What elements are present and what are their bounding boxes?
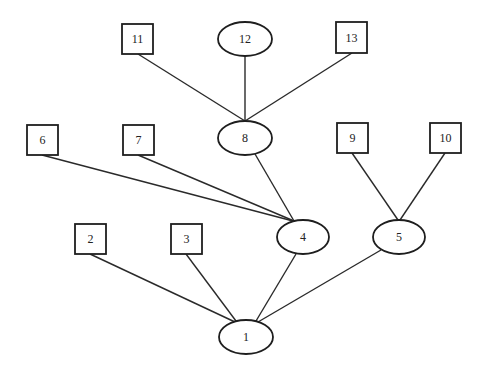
node-label: 4 — [300, 230, 306, 244]
node-label: 5 — [396, 230, 402, 244]
node-label: 9 — [350, 131, 356, 145]
node-label: 10 — [440, 131, 452, 145]
node-2: 2 — [75, 224, 106, 254]
node-6: 6 — [27, 125, 58, 155]
node-1: 1 — [219, 320, 273, 354]
node-10: 10 — [430, 123, 461, 153]
edge-7-to-4 — [138, 155, 294, 221]
node-label: 11 — [132, 32, 144, 46]
node-label: 7 — [136, 133, 142, 147]
node-11: 11 — [122, 24, 153, 54]
node-7: 7 — [123, 125, 154, 155]
node-12: 12 — [218, 22, 272, 56]
node-13: 13 — [336, 22, 367, 53]
node-label: 2 — [88, 232, 94, 246]
node-label: 6 — [40, 133, 46, 147]
node-label: 12 — [239, 32, 251, 46]
node-9: 9 — [337, 123, 368, 153]
edge-10-to-5 — [400, 153, 445, 220]
tree-diagram: 12345678910111213 — [0, 0, 485, 368]
edge-9-to-5 — [352, 153, 398, 220]
edge-8-to-4 — [255, 154, 294, 221]
node-8: 8 — [218, 121, 272, 155]
edge-6-to-4 — [42, 155, 293, 221]
node-label: 1 — [243, 330, 249, 344]
edge-2-to-1 — [90, 254, 235, 322]
node-5: 5 — [373, 220, 425, 254]
nodes-group: 12345678910111213 — [27, 22, 461, 354]
edge-11-to-8 — [138, 54, 245, 121]
edge-13-to-8 — [245, 53, 352, 121]
node-label: 8 — [242, 131, 248, 145]
edges-group — [42, 53, 445, 322]
node-4: 4 — [277, 220, 329, 254]
node-label: 3 — [184, 232, 190, 246]
node-3: 3 — [171, 224, 202, 254]
node-label: 13 — [346, 31, 358, 45]
